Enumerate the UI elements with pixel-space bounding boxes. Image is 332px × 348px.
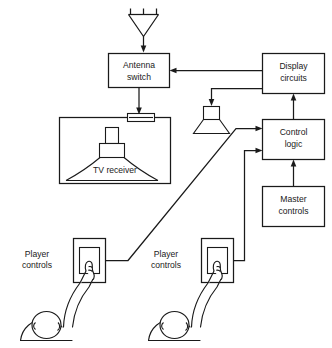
player-controls-2-label-line1: Player xyxy=(154,249,178,259)
wire-display-to-speaker xyxy=(209,89,262,107)
tuner-connector-symbol xyxy=(128,114,155,122)
antenna-symbol xyxy=(129,9,159,53)
diagram-svg: Antenna switch TV receiver xyxy=(0,0,332,348)
control-logic-block[interactable]: Control logic xyxy=(263,120,325,160)
master-controls-label-line2: controls xyxy=(278,206,308,216)
antenna-switch-label-line1: Antenna xyxy=(123,60,155,70)
block-diagram-canvas: Antenna switch TV receiver xyxy=(0,0,332,348)
wire-antenna-switch-to-tv xyxy=(136,88,142,115)
display-circuits-block[interactable]: Display circuits xyxy=(263,54,325,94)
tv-receiver-label: TV receiver xyxy=(93,165,137,175)
wire-player2-to-control xyxy=(234,148,263,261)
wire-master-to-control xyxy=(291,160,297,187)
player-controls-1-label-line1: Player xyxy=(25,249,49,259)
display-circuits-label-line2: circuits xyxy=(280,73,307,83)
antenna-switch-label-line2: switch xyxy=(127,72,151,82)
antenna-switch-block[interactable]: Antenna switch xyxy=(109,54,170,88)
player-controls-1-label-line2: controls xyxy=(22,260,52,270)
wire-control-to-display xyxy=(291,94,297,120)
control-logic-label-line1: Control xyxy=(280,127,308,137)
control-logic-label-line2: logic xyxy=(285,139,303,149)
master-controls-block[interactable]: Master controls xyxy=(263,187,325,227)
display-circuits-label-line1: Display xyxy=(279,61,308,71)
master-controls-label-line1: Master xyxy=(280,194,306,204)
player-controls-2-label-line2: controls xyxy=(151,260,181,270)
wire-display-to-antenna-switch xyxy=(170,68,263,74)
speaker-symbol xyxy=(194,107,230,134)
tv-receiver-block[interactable]: TV receiver xyxy=(60,114,171,184)
